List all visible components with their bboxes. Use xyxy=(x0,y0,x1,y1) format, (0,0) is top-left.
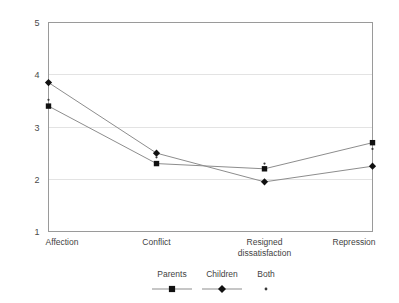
y-tick-label: 5 xyxy=(34,18,39,28)
series-line-parents xyxy=(49,106,373,169)
gridlines-group xyxy=(49,75,373,180)
legend-marker-parents xyxy=(169,286,175,292)
data-point-children-1 xyxy=(153,150,160,157)
chart-container: 12345 AffectionConflictResigneddissatisf… xyxy=(0,0,399,303)
data-point-children-3 xyxy=(369,163,376,170)
x-axis-category-labels: AffectionConflictResigneddissatisfaction… xyxy=(46,237,376,258)
data-point-both-3 xyxy=(371,148,373,150)
x-category-label: Conflict xyxy=(142,237,171,247)
y-axis-tick-labels: 12345 xyxy=(34,18,39,237)
legend-label-both: Both xyxy=(257,269,275,279)
legend-label-children: Children xyxy=(206,269,238,279)
data-point-both-0 xyxy=(47,99,49,101)
data-point-parents-3 xyxy=(370,140,375,145)
x-category-label: dissatisfaction xyxy=(238,248,292,258)
y-tick-label: 4 xyxy=(34,70,39,80)
series-markers-group xyxy=(45,79,376,185)
legend-marker-children xyxy=(218,285,226,293)
chart-legend: ParentsChildrenBoth xyxy=(152,269,275,293)
data-point-parents-0 xyxy=(46,103,51,108)
data-point-both-2 xyxy=(263,162,265,164)
line-chart: 12345 AffectionConflictResigneddissatisf… xyxy=(0,0,399,303)
legend-label-parents: Parents xyxy=(157,269,186,279)
x-category-label: Resigned xyxy=(247,237,283,247)
x-category-label: Repression xyxy=(333,237,376,247)
data-point-parents-1 xyxy=(154,161,159,166)
y-tick-label: 3 xyxy=(34,123,39,133)
y-tick-label: 1 xyxy=(34,227,39,237)
data-point-parents-2 xyxy=(262,166,267,171)
legend-marker-both xyxy=(265,288,268,291)
data-point-both-1 xyxy=(155,156,157,158)
data-point-children-0 xyxy=(45,79,52,86)
x-category-label: Affection xyxy=(46,237,79,247)
series-lines-group xyxy=(49,83,373,182)
y-tick-label: 2 xyxy=(34,175,39,185)
